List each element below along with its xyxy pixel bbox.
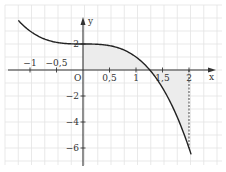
x-axis-label: x — [209, 72, 214, 82]
origin-label: O — [74, 73, 81, 83]
y-axis-label: y — [87, 16, 94, 26]
x-tick-label: 1,5 — [155, 73, 170, 83]
y-tick-label: −2 — [66, 91, 79, 101]
x-tick-label: 1 — [133, 73, 139, 83]
x-tick-label: −1 — [23, 58, 36, 68]
x-tick-label: 0,5 — [102, 73, 117, 83]
chart-canvas: −1−0,50,511,52 2−2−4−6 x y O — [0, 0, 226, 172]
x-tick-label: −0,5 — [46, 58, 68, 68]
function-graph: −1−0,50,511,52 2−2−4−6 x y O — [0, 0, 226, 172]
y-tick-label: −6 — [66, 143, 80, 153]
y-tick-label: −4 — [66, 117, 80, 127]
